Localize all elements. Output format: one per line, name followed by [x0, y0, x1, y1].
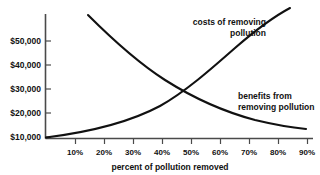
x-axis-tick-labels: 10% 20% 30% 40% 50% 60% 70% 80% 90%	[67, 148, 315, 157]
x-tick-label-40: 40%	[154, 148, 170, 157]
x-axis-title: percent of pollution removed	[111, 162, 228, 172]
x-tick-label-70: 70%	[241, 148, 257, 157]
annotation-benefits-line1: benefits from	[238, 91, 292, 101]
chart-canvas: $50,000 $40,000 $30,000 $20,000 $10,000 …	[0, 0, 320, 175]
y-tick-label-20000: $20,000	[10, 108, 41, 118]
annotation-benefits-line2: removing pollution	[238, 102, 315, 112]
annotation-costs-label: costs of removing pollution	[193, 17, 266, 38]
y-tick-label-50000: $50,000	[10, 36, 41, 46]
x-tick-label-90: 90%	[299, 148, 315, 157]
annotation-costs-line1: costs of removing	[193, 17, 266, 27]
pollution-cost-benefit-chart: $50,000 $40,000 $30,000 $20,000 $10,000 …	[0, 0, 320, 175]
x-tick-label-20: 20%	[96, 148, 112, 157]
chart-axes	[46, 14, 314, 139]
y-axis-tick-labels: $50,000 $40,000 $30,000 $20,000 $10,000	[10, 36, 41, 142]
x-tick-label-50: 50%	[183, 148, 199, 157]
y-tick-label-30000: $30,000	[10, 84, 41, 94]
x-tick-label-10: 10%	[67, 148, 83, 157]
x-tick-label-60: 60%	[212, 148, 228, 157]
x-tick-label-30: 30%	[125, 148, 141, 157]
annotation-benefits-label: benefits from removing pollution	[238, 91, 315, 112]
x-tick-label-80: 80%	[270, 148, 286, 157]
annotation-costs-line2: pollution	[230, 28, 266, 38]
y-tick-label-10000: $10,000	[10, 132, 41, 142]
y-tick-label-40000: $40,000	[10, 60, 41, 70]
